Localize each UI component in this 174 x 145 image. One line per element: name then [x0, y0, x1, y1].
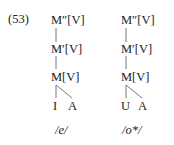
tree2-leaf-1: U	[121, 100, 130, 113]
tree1-node-m1: M′[V]	[51, 43, 82, 56]
tree2-node-m0: M[V]	[121, 71, 149, 84]
tree1-leaf-2: A	[68, 100, 77, 113]
tree1-node-m0: M[V]	[51, 71, 79, 84]
tree2-leaf-2: A	[138, 100, 147, 113]
tree2-node-m1: M′[V]	[121, 43, 152, 56]
tree2-phoneme: /o*/	[122, 124, 141, 137]
tree1-leaf-1: I	[53, 100, 57, 113]
tree2-node-m2: M″[V]	[121, 14, 155, 27]
tree1-phoneme: /e/	[55, 124, 68, 137]
tree1-node-m2: M″[V]	[51, 14, 85, 27]
